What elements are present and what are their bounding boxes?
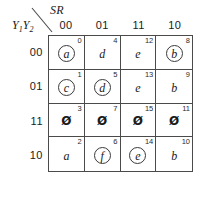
cell-index: 11 bbox=[182, 104, 190, 113]
karnaugh-map: SR Y1Y2 00 01 11 10 00 01 11 10 0 a 4 d … bbox=[0, 0, 206, 206]
cell-value: f bbox=[94, 147, 111, 164]
cell-value: b bbox=[166, 147, 183, 164]
cell-value: d bbox=[94, 79, 111, 96]
row-variable-letter-1: Y bbox=[12, 18, 19, 32]
cell-index: 15 bbox=[145, 104, 153, 113]
cell-index: 1 bbox=[78, 70, 82, 79]
row-variable-sub-2: 2 bbox=[29, 25, 33, 34]
cell-index: 14 bbox=[145, 137, 153, 146]
kmap-grid: 0 a 4 d 12 e 8 b 1 c 5 d 13 e 9 b bbox=[48, 35, 193, 172]
cell-value: e bbox=[129, 147, 146, 164]
kmap-cell[interactable]: 14 e bbox=[121, 137, 157, 171]
row-header: 10 bbox=[14, 138, 46, 172]
cell-value: e bbox=[129, 79, 146, 96]
cell-value: Ø bbox=[166, 113, 183, 130]
cell-value: Ø bbox=[94, 113, 111, 130]
row-header: 00 bbox=[14, 35, 46, 69]
kmap-cell[interactable]: 1 c bbox=[49, 70, 85, 104]
cell-value: d bbox=[94, 45, 111, 62]
kmap-cell[interactable]: 2 a bbox=[49, 137, 85, 171]
cell-value: a bbox=[58, 147, 75, 164]
cell-index: 10 bbox=[182, 137, 190, 146]
column-header: 11 bbox=[121, 18, 157, 32]
column-variable-label: SR bbox=[50, 3, 64, 18]
cell-index: 6 bbox=[113, 137, 117, 146]
row-variable-label: Y1Y2 bbox=[12, 18, 33, 34]
cell-index: 7 bbox=[113, 104, 117, 113]
cell-index: 5 bbox=[113, 70, 117, 79]
cell-index: 0 bbox=[78, 36, 82, 45]
kmap-cell[interactable]: 5 d bbox=[85, 70, 121, 104]
cell-value: Ø bbox=[58, 113, 75, 130]
row-header-column: 00 01 11 10 bbox=[14, 35, 46, 172]
cell-value: b bbox=[166, 45, 183, 62]
cell-value: Ø bbox=[129, 113, 146, 130]
cell-index: 12 bbox=[145, 36, 153, 45]
cell-value: e bbox=[129, 45, 146, 62]
kmap-cell[interactable]: 15 Ø bbox=[121, 104, 157, 138]
column-header: 01 bbox=[84, 18, 120, 32]
column-header: 00 bbox=[48, 18, 84, 32]
column-header-row: 00 01 11 10 bbox=[48, 18, 193, 32]
cell-index: 8 bbox=[186, 36, 190, 45]
kmap-cell[interactable]: 8 b bbox=[156, 36, 192, 70]
kmap-cell[interactable]: 10 b bbox=[156, 137, 192, 171]
kmap-cell[interactable]: 6 f bbox=[85, 137, 121, 171]
cell-index: 13 bbox=[145, 70, 153, 79]
cell-value: b bbox=[166, 79, 183, 96]
kmap-cell[interactable]: 7 Ø bbox=[85, 104, 121, 138]
cell-value: a bbox=[58, 45, 75, 62]
row-header: 11 bbox=[14, 104, 46, 138]
cell-index: 2 bbox=[78, 137, 82, 146]
kmap-cell[interactable]: 13 e bbox=[121, 70, 157, 104]
column-header: 10 bbox=[157, 18, 193, 32]
kmap-cell[interactable]: 11 Ø bbox=[156, 104, 192, 138]
row-header: 01 bbox=[14, 69, 46, 103]
kmap-cell[interactable]: 12 e bbox=[121, 36, 157, 70]
kmap-cell[interactable]: 0 a bbox=[49, 36, 85, 70]
cell-value: c bbox=[58, 79, 75, 96]
cell-index: 3 bbox=[78, 104, 82, 113]
kmap-cell[interactable]: 3 Ø bbox=[49, 104, 85, 138]
cell-index: 4 bbox=[113, 36, 117, 45]
kmap-cell[interactable]: 4 d bbox=[85, 36, 121, 70]
kmap-cell[interactable]: 9 b bbox=[156, 70, 192, 104]
cell-index: 9 bbox=[186, 70, 190, 79]
